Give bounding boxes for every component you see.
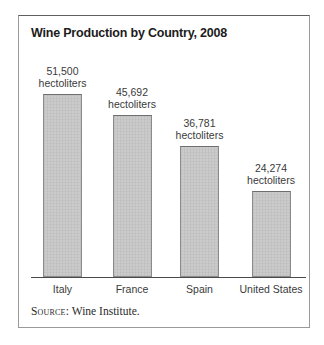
bar-value-label-italy: 51,500hectoliters xyxy=(25,65,101,89)
bar-value-label-spain: 36,781hectoliters xyxy=(162,117,238,141)
bar-spain xyxy=(180,146,219,277)
source-text: Wine Institute. xyxy=(72,305,140,317)
bar-value-label-france: 45,692hectoliters xyxy=(94,86,170,110)
source-note: Source: Wine Institute. xyxy=(31,305,140,317)
bar-italy xyxy=(43,94,82,277)
figure-canvas: Wine Production by Country, 2008 51,500h… xyxy=(0,0,324,345)
plot-area: 51,500hectoliters45,692hectoliters36,781… xyxy=(19,16,309,327)
category-label-united-states: United States xyxy=(229,283,313,295)
x-axis-line xyxy=(31,277,306,278)
bar-value-label-united-states: 24,274hectoliters xyxy=(233,162,309,186)
bar-france xyxy=(113,115,152,277)
bars-container: 51,500hectoliters45,692hectoliters36,781… xyxy=(19,16,309,277)
bar-united-states xyxy=(252,191,291,277)
source-prefix: Source: xyxy=(31,305,69,317)
chart-panel: Wine Production by Country, 2008 51,500h… xyxy=(18,15,310,328)
